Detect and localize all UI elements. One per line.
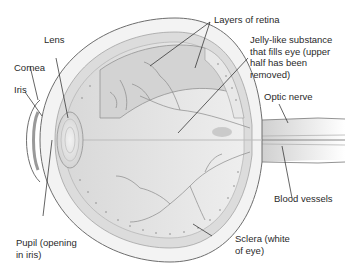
label-blood-vessels: Blood vessels — [274, 193, 333, 205]
eye-diagram: Layers of retina Lens Cornea Iris Jelly-… — [0, 0, 350, 269]
optic-nerve-shape — [262, 118, 345, 163]
label-lens: Lens — [44, 34, 65, 46]
optic-disc — [212, 127, 232, 137]
label-sclera: Sclera (white of eye) — [235, 233, 290, 256]
iris-shape — [34, 112, 39, 170]
lens-shape — [57, 112, 83, 168]
label-cornea: Cornea — [14, 62, 45, 74]
label-optic-nerve: Optic nerve — [264, 91, 313, 103]
label-jelly-like-substance: Jelly-like substance that fills eye (upp… — [250, 34, 332, 80]
label-iris: Iris — [14, 84, 27, 96]
label-layers-of-retina: Layers of retina — [214, 14, 279, 26]
label-pupil: Pupil (opening in iris) — [16, 237, 77, 260]
